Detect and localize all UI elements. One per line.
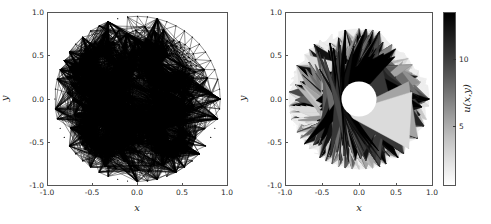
contour-ytick [285, 55, 288, 56]
contour-xticklabel: -0.5 [315, 188, 330, 197]
mesh-xticklabel: -0.5 [85, 188, 100, 197]
contour-yticklabel: 0.5 [260, 51, 282, 60]
contour-plot [286, 13, 432, 185]
contour-xticklabel: 1.0 [426, 188, 438, 197]
mesh-xtick [227, 183, 228, 186]
contour-xtick [359, 183, 360, 186]
contour-xtick [396, 183, 397, 186]
mesh-yticklabel: -0.5 [22, 138, 44, 147]
mesh-xticklabel: 0.5 [176, 188, 188, 197]
colorbar-tick [453, 59, 456, 60]
contour-axes [285, 12, 433, 186]
mesh-axes [47, 12, 228, 186]
contour-yticklabel: -0.5 [260, 138, 282, 147]
mesh-xtick [137, 183, 138, 186]
mesh-xticklabel: 1.0 [221, 188, 233, 197]
contour-yticklabel: 1.0 [260, 8, 282, 17]
mesh-xtick [182, 183, 183, 186]
colorbar-ticklabel: 5 [459, 122, 464, 131]
mesh-ytick [47, 12, 50, 13]
mesh-xticklabel: 0.0 [131, 188, 143, 197]
colorbar-label: u(x,y) [461, 84, 472, 113]
mesh-ylabel: y [0, 96, 10, 102]
contour-xtick [322, 183, 323, 186]
contour-xtick [432, 183, 433, 186]
mesh-yticklabel: 1.0 [22, 8, 44, 17]
contour-xticklabel: 0.0 [353, 188, 365, 197]
contour-yticklabel: 0.0 [260, 95, 282, 104]
contour-ytick [285, 99, 288, 100]
mesh-ytick [47, 99, 50, 100]
colorbar-tick [453, 126, 456, 127]
colorbar [443, 12, 456, 186]
contour-xlabel: x [356, 202, 362, 213]
mesh-yticklabel: 0.0 [22, 95, 44, 104]
mesh-ytick [47, 142, 50, 143]
mesh-plot [48, 13, 227, 185]
contour-yticklabel: -1.0 [260, 181, 282, 190]
contour-ytick [285, 142, 288, 143]
mesh-yticklabel: 0.5 [22, 51, 44, 60]
contour-xticklabel: 0.5 [390, 188, 402, 197]
mesh-ytick [47, 55, 50, 56]
contour-ylabel: y [237, 96, 248, 102]
mesh-ytick [47, 185, 50, 186]
figure-canvas: -1.0 -0.5 0.0 0.5 1.0 1.0 0.5 0.0 -0.5 -… [0, 0, 491, 224]
mesh-xlabel: x [134, 202, 140, 213]
mesh-xtick [92, 183, 93, 186]
contour-ytick [285, 185, 288, 186]
colorbar-ticklabel: 10 [459, 55, 469, 64]
contour-ytick [285, 12, 288, 13]
mesh-yticklabel: -1.0 [22, 181, 44, 190]
